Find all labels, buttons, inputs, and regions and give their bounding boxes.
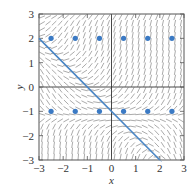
slope-segment	[138, 38, 139, 44]
slope-segment	[42, 142, 43, 148]
slope-segment	[132, 44, 133, 50]
slope-segment	[58, 76, 63, 80]
slope-segment	[40, 69, 43, 74]
slope-segment	[52, 75, 56, 80]
slope-segment	[77, 20, 80, 26]
slope-segment	[125, 14, 128, 20]
slope-segment	[119, 88, 123, 93]
slope-segment	[142, 125, 148, 128]
slope-segment	[93, 120, 99, 122]
slope-segment	[94, 14, 98, 19]
slope-segment	[111, 126, 117, 128]
slope-segment	[124, 132, 130, 134]
slope-segment	[78, 148, 79, 154]
slope-segment	[118, 136, 122, 141]
slope-segment	[142, 120, 148, 122]
x-tick-label: 1	[133, 162, 139, 174]
slope-segment	[64, 94, 68, 99]
slope-segment	[126, 57, 128, 63]
slope-segment	[136, 126, 142, 128]
slope-segment	[69, 114, 75, 115]
slope-segment	[42, 148, 43, 154]
slope-segment	[138, 81, 140, 87]
slope-segment	[58, 82, 62, 87]
slope-segment	[180, 14, 182, 20]
slope-segment	[88, 76, 93, 79]
slope-segment	[64, 45, 68, 50]
slope-segment	[144, 38, 145, 44]
data-point	[145, 36, 150, 41]
slope-segment	[51, 59, 57, 61]
slope-segment	[143, 87, 146, 93]
slope-segment	[66, 148, 67, 154]
slope-segment	[71, 45, 74, 51]
slope-segment	[95, 51, 98, 57]
slope-segment	[41, 87, 44, 93]
slope-segment	[132, 63, 134, 69]
y-tick-label: 2	[29, 32, 35, 44]
slope-segment	[39, 52, 45, 55]
slope-segment	[160, 119, 166, 122]
slope-segment	[168, 26, 169, 32]
slope-segment	[45, 119, 50, 123]
slope-segment	[154, 149, 159, 153]
slope-segment	[168, 20, 169, 26]
slope-segment	[57, 114, 63, 115]
slope-segment	[111, 101, 117, 103]
slope-segment	[107, 20, 109, 26]
slope-segment	[46, 100, 50, 105]
slope-segment	[180, 20, 181, 26]
slope-segment	[105, 102, 111, 103]
slope-segment	[82, 15, 86, 20]
slope-segment	[130, 107, 136, 109]
slope-segment	[108, 148, 109, 154]
slope-segment	[107, 142, 109, 148]
slope-segment	[113, 81, 117, 86]
slope-segment	[69, 119, 75, 122]
slope-segment	[180, 75, 181, 81]
x-tick-label: 0	[109, 162, 115, 174]
x-axis-title: x	[108, 174, 114, 186]
slope-segment	[131, 94, 135, 99]
slope-segment	[113, 51, 115, 57]
x-tick-label: −3	[33, 162, 45, 174]
slope-segment	[174, 87, 176, 93]
slope-segment	[126, 50, 128, 56]
slope-segment	[180, 87, 182, 93]
slope-segment	[126, 20, 128, 26]
slope-segment	[105, 120, 111, 121]
slope-segment	[107, 69, 110, 75]
slope-segment	[124, 100, 129, 104]
slope-segment	[137, 93, 141, 98]
slope-segment	[180, 130, 183, 136]
slope-segment	[51, 114, 57, 116]
slope-segment	[52, 93, 56, 98]
slope-segment	[52, 27, 56, 32]
slope-segment	[181, 26, 182, 32]
slope-segment	[87, 101, 93, 103]
slope-segment	[160, 155, 165, 159]
slope-segment	[51, 64, 56, 67]
data-point	[169, 109, 174, 114]
slope-segment	[131, 87, 134, 93]
slope-segment	[53, 124, 56, 130]
slope-segment	[87, 107, 93, 109]
slope-segment	[39, 34, 45, 36]
slope-segment	[107, 63, 110, 69]
slope-segment	[54, 136, 55, 142]
slope-segment	[102, 142, 104, 148]
slope-segment	[144, 57, 145, 63]
slope-segment	[130, 142, 134, 147]
slope-segment	[95, 130, 98, 135]
slope-segment	[75, 71, 81, 73]
slope-segment	[65, 130, 67, 136]
slope-segment	[64, 106, 69, 110]
slope-segment	[132, 69, 134, 75]
slope-segment	[180, 93, 182, 99]
slope-segment	[174, 136, 177, 142]
slope-segment	[57, 70, 62, 73]
slope-segment	[78, 142, 79, 148]
slope-segment	[93, 102, 99, 103]
slope-segment	[174, 14, 176, 20]
slope-segment	[117, 108, 123, 109]
